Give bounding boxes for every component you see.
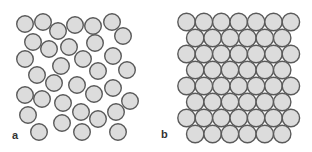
- circle-particle: [213, 77, 230, 94]
- circle-particle: [204, 93, 221, 110]
- circle-particle: [230, 109, 247, 126]
- circle-particle: [178, 109, 195, 126]
- circle-particle: [187, 61, 204, 78]
- circle-particle: [17, 51, 34, 68]
- circle-particle: [282, 109, 299, 126]
- panel-label-a: a: [12, 130, 18, 141]
- circle-particle: [221, 61, 238, 78]
- circle-particle: [265, 13, 282, 30]
- circle-particle: [67, 17, 84, 34]
- circle-particle: [221, 29, 238, 46]
- circle-particle: [53, 58, 70, 75]
- circle-particle: [115, 28, 132, 45]
- circle-particle: [90, 111, 107, 128]
- circle-particle: [17, 87, 34, 104]
- circle-particle: [282, 45, 299, 62]
- circle-particle: [247, 13, 264, 30]
- circle-particle: [195, 45, 212, 62]
- circle-particle: [256, 125, 273, 142]
- circle-particle: [204, 61, 221, 78]
- circle-particle: [41, 41, 58, 58]
- circle-particle: [119, 62, 136, 79]
- circle-particle: [204, 29, 221, 46]
- circle-particle: [34, 91, 51, 108]
- circle-particle: [195, 13, 212, 30]
- circle-particle: [239, 125, 256, 142]
- circle-particle: [25, 34, 42, 51]
- circle-particle: [75, 51, 92, 68]
- circle-particle: [61, 39, 78, 56]
- circle-particle: [282, 77, 299, 94]
- panel-label-b: b: [161, 129, 168, 140]
- circle-particle: [256, 93, 273, 110]
- circle-particle: [195, 77, 212, 94]
- circle-particle: [187, 125, 204, 142]
- circle-particle: [195, 109, 212, 126]
- circle-particle: [178, 77, 195, 94]
- circle-particle: [105, 48, 122, 65]
- circle-particle: [247, 109, 264, 126]
- circle-particle: [187, 29, 204, 46]
- circle-particle: [204, 125, 221, 142]
- circle-particle: [35, 14, 52, 31]
- circle-particle: [274, 93, 291, 110]
- circle-particle: [230, 77, 247, 94]
- circle-particle: [282, 13, 299, 30]
- circle-particle: [105, 80, 122, 97]
- circle-particle: [221, 93, 238, 110]
- panel-b-packed-circles: [178, 13, 300, 142]
- circle-particle: [213, 109, 230, 126]
- circle-particle: [85, 18, 102, 35]
- circle-particle: [87, 35, 104, 52]
- circle-particle: [221, 125, 238, 142]
- circle-particle: [187, 93, 204, 110]
- circle-particle: [46, 75, 63, 92]
- circle-particle: [239, 61, 256, 78]
- circle-particle: [73, 104, 90, 121]
- circle-particle: [247, 45, 264, 62]
- circle-particle: [256, 61, 273, 78]
- circle-particle: [265, 77, 282, 94]
- circle-particle: [256, 29, 273, 46]
- circle-particle: [74, 124, 91, 141]
- circle-particle: [55, 95, 72, 112]
- circle-particle: [122, 93, 139, 110]
- circle-particle: [213, 13, 230, 30]
- circle-particle: [50, 23, 67, 40]
- circle-particle: [17, 16, 34, 33]
- figure-canvas: [0, 0, 312, 152]
- circle-particle: [90, 63, 107, 80]
- circle-particle: [265, 109, 282, 126]
- circle-particle: [29, 67, 46, 84]
- circle-particle: [69, 77, 86, 94]
- circle-particle: [274, 61, 291, 78]
- circle-particle: [239, 93, 256, 110]
- circle-particle: [230, 45, 247, 62]
- circle-particle: [247, 77, 264, 94]
- circle-particle: [31, 124, 48, 141]
- circle-particle: [86, 86, 103, 103]
- circle-particle: [239, 29, 256, 46]
- circle-particle: [213, 45, 230, 62]
- panel-a-random-circles: [17, 14, 139, 141]
- circle-particle: [178, 45, 195, 62]
- circle-particle: [265, 45, 282, 62]
- circle-particle: [274, 125, 291, 142]
- circle-particle: [108, 104, 125, 121]
- circle-particle: [274, 29, 291, 46]
- circle-particle: [110, 124, 127, 141]
- circle-particle: [178, 13, 195, 30]
- circle-particle: [54, 115, 71, 132]
- circle-particle: [104, 14, 121, 31]
- circle-particle: [20, 107, 37, 124]
- circle-particle: [230, 13, 247, 30]
